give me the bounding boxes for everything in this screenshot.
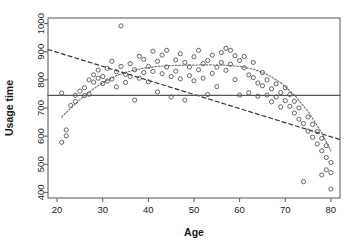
svg-text:30: 30 bbox=[97, 204, 108, 215]
svg-text:40: 40 bbox=[143, 204, 154, 215]
svg-text:80: 80 bbox=[326, 204, 337, 215]
svg-text:70: 70 bbox=[280, 204, 291, 215]
y-axis-title: Usage time bbox=[3, 80, 15, 136]
svg-text:50: 50 bbox=[189, 204, 200, 215]
svg-text:60: 60 bbox=[234, 204, 245, 215]
svg-text:400: 400 bbox=[35, 184, 46, 200]
scatter-plot-figure: 4005006007008009001000 20304050607080 Us… bbox=[0, 0, 352, 252]
svg-text:600: 600 bbox=[35, 128, 46, 144]
svg-text:800: 800 bbox=[35, 72, 46, 88]
svg-text:1000: 1000 bbox=[35, 13, 46, 34]
x-axis-title: Age bbox=[184, 226, 204, 238]
svg-text:500: 500 bbox=[35, 156, 46, 172]
svg-text:20: 20 bbox=[52, 204, 63, 215]
chart-canvas: 4005006007008009001000 20304050607080 Us… bbox=[0, 0, 352, 252]
svg-text:700: 700 bbox=[35, 100, 46, 116]
svg-text:900: 900 bbox=[35, 44, 46, 60]
